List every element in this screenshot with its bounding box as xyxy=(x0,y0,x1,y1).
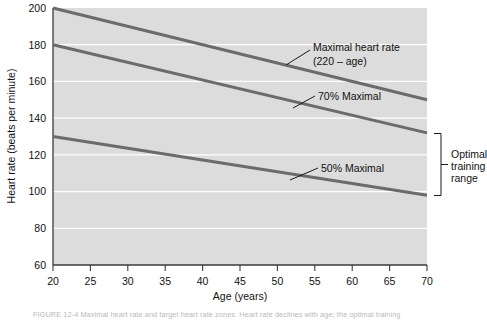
bracket-label-line2: training xyxy=(451,160,486,172)
annotation-50-percent-maximal: 50% Maximal xyxy=(321,162,384,174)
y-tick-label: 180 xyxy=(28,39,46,51)
x-axis-ticks xyxy=(53,265,427,271)
bracket-label-line3: range xyxy=(451,172,478,184)
optimal-training-range-bracket xyxy=(434,134,448,196)
x-tick-label: 70 xyxy=(421,275,433,287)
x-tick-label: 40 xyxy=(197,275,209,287)
x-tick-label: 25 xyxy=(85,275,97,287)
figure-caption: FIGURE 12-4 Maximal heart rate and targe… xyxy=(33,311,481,319)
x-tick-label: 50 xyxy=(272,275,284,287)
y-axis-title: Heart rate (beats per minute) xyxy=(5,69,17,204)
y-tick-labels: 60 80 100 120 140 160 180 200 xyxy=(28,2,46,271)
x-tick-label: 60 xyxy=(346,275,358,287)
y-tick-label: 100 xyxy=(28,185,46,197)
y-tick-label: 140 xyxy=(28,112,46,124)
x-tick-label: 30 xyxy=(122,275,134,287)
y-tick-label: 80 xyxy=(34,222,46,234)
x-tick-labels: 20 25 30 35 40 45 50 55 60 65 70 xyxy=(47,275,433,287)
x-tick-label: 55 xyxy=(309,275,321,287)
heart-rate-chart: 20 25 30 35 40 45 50 55 60 65 70 60 80 1… xyxy=(0,0,487,322)
x-tick-label: 45 xyxy=(234,275,246,287)
bracket-label-line1: Optimal xyxy=(451,148,487,160)
x-axis-title: Age (years) xyxy=(213,290,267,302)
y-tick-label: 160 xyxy=(28,75,46,87)
annotation-maximal-formula: (220 – age) xyxy=(313,55,367,67)
y-tick-label: 120 xyxy=(28,149,46,161)
y-tick-label: 60 xyxy=(34,259,46,271)
figure-container: 20 25 30 35 40 45 50 55 60 65 70 60 80 1… xyxy=(0,0,487,322)
annotation-70-percent-maximal: 70% Maximal xyxy=(318,90,381,102)
annotation-maximal-heart-rate: Maximal heart rate xyxy=(313,41,400,53)
x-tick-label: 20 xyxy=(47,275,59,287)
y-tick-label: 200 xyxy=(28,2,46,14)
x-tick-label: 35 xyxy=(159,275,171,287)
x-tick-label: 65 xyxy=(384,275,396,287)
